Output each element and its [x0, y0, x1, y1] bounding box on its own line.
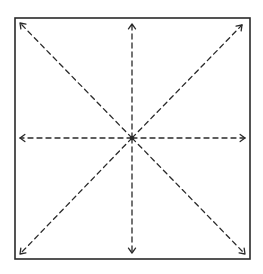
- radiating-arrows-diagram: [0, 0, 263, 274]
- arrow-down-icon: [128, 138, 135, 253]
- arrow-up-icon: [128, 24, 135, 138]
- arrow-up-left-icon: [20, 23, 132, 138]
- center-point: [130, 136, 134, 140]
- arrow-left-icon: [20, 134, 132, 141]
- arrow-right-icon: [132, 134, 245, 141]
- arrow-down-right-icon: [132, 138, 245, 254]
- arrow-down-left-icon: [20, 138, 132, 254]
- arrow-up-right-icon: [132, 25, 242, 138]
